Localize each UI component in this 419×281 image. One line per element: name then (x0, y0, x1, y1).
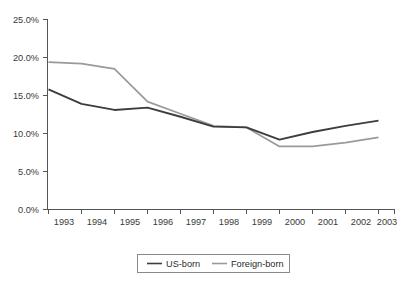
y-tick-label-25: 25.0% (13, 15, 39, 25)
x-tick-label-1996: 1996 (153, 217, 173, 227)
y-tick-label-15: 15.0% (13, 91, 39, 101)
x-tick-label-1998: 1998 (219, 217, 239, 227)
x-tick-label-2001: 2001 (318, 217, 338, 227)
series-line-foreign-born (49, 62, 379, 146)
chart-canvas: 0.0% 5.0% 10.0% 15.0% 20.0% 25.0% 1993 1… (0, 0, 419, 281)
x-tick-label-1999: 1999 (252, 217, 272, 227)
y-tick-label-5: 5.0% (18, 167, 39, 177)
x-tick-label-1993: 1993 (54, 217, 74, 227)
x-tick-label-1995: 1995 (120, 217, 140, 227)
series-line-us-born (49, 89, 379, 139)
y-tick-label-20: 20.0% (13, 53, 39, 63)
x-tick-label-2002: 2002 (351, 217, 371, 227)
x-tick-label-1997: 1997 (186, 217, 206, 227)
y-tick-label-0: 0.0% (18, 205, 39, 215)
y-tick-label-10: 10.0% (13, 129, 39, 139)
x-tick-label-2003: 2003 (377, 217, 397, 227)
chart-legend: US-born Foreign-born (138, 255, 290, 273)
legend-label-foreign-born: Foreign-born (231, 259, 284, 269)
legend-label-us-born: US-born (166, 259, 200, 269)
x-tick-label-1994: 1994 (87, 217, 107, 227)
line-chart: 0.0% 5.0% 10.0% 15.0% 20.0% 25.0% 1993 1… (0, 0, 419, 281)
x-tick-label-2000: 2000 (285, 217, 305, 227)
